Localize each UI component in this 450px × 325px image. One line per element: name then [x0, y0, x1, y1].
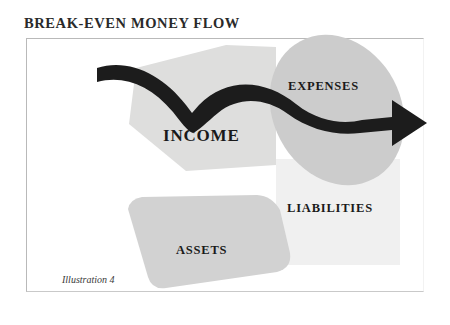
assets-shape[interactable] [128, 195, 290, 288]
expenses-label: EXPENSES [288, 79, 359, 93]
illustration-canvas: BREAK-EVEN MONEY FLOW INCOME EXPENSES LI… [0, 0, 450, 325]
assets-label: ASSETS [176, 243, 227, 257]
income-label: INCOME [163, 126, 240, 145]
figure-caption: Illustration 4 [62, 274, 115, 285]
liabilities-label: LIABILITIES [287, 201, 373, 215]
